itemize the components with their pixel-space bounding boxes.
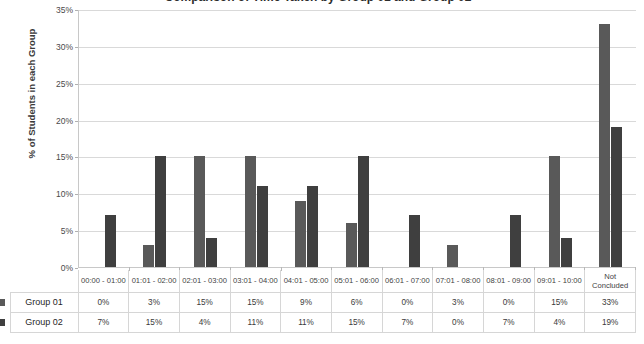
legend-swatch-icon bbox=[0, 319, 5, 326]
bar-group bbox=[79, 10, 130, 267]
table-value-cell: 6% bbox=[331, 292, 382, 312]
chart-title: Comparison of Time Taken by Group 01 and… bbox=[78, 0, 558, 4]
bar-pair bbox=[535, 10, 586, 267]
y-axis-tick-mark bbox=[75, 10, 78, 11]
bar-group-02[interactable] bbox=[257, 186, 268, 267]
table-value-cell: 4% bbox=[179, 312, 230, 332]
bar-group-01[interactable] bbox=[346, 223, 357, 267]
bar-group bbox=[130, 10, 181, 267]
bar-group-02[interactable] bbox=[307, 186, 318, 267]
bar-group bbox=[433, 10, 484, 267]
table-column-header: 03:01 - 04:00 bbox=[230, 270, 281, 292]
y-axis-tick-mark bbox=[75, 47, 78, 48]
table-row: Group 027%15%4%11%11%15%7%0%7%4%19% bbox=[0, 312, 636, 332]
table-header-key-cell bbox=[0, 270, 10, 292]
table-value-cell: 7% bbox=[78, 312, 129, 332]
bar-group-01[interactable] bbox=[295, 201, 306, 267]
table-value-cell: 0% bbox=[382, 292, 433, 312]
table-value-cell: 7% bbox=[483, 312, 534, 332]
table-column-header: 01:01 - 02:00 bbox=[129, 270, 180, 292]
bar-group-02[interactable] bbox=[611, 127, 622, 267]
bar-pair bbox=[484, 10, 535, 267]
y-axis-tick-mark bbox=[75, 194, 78, 195]
legend-swatch-icon bbox=[0, 299, 5, 306]
table-column-header: 00:00 - 01:00 bbox=[78, 270, 129, 292]
table-value-cell: 11% bbox=[230, 312, 281, 332]
bar-group-02[interactable] bbox=[510, 215, 521, 267]
table-value-cell: 33% bbox=[585, 292, 636, 312]
bar-group bbox=[535, 10, 586, 267]
bar-pair bbox=[282, 10, 333, 267]
bar-group-02[interactable] bbox=[206, 238, 217, 267]
bar-pair bbox=[180, 10, 231, 267]
table-value-cell: 3% bbox=[433, 292, 484, 312]
table-value-cell: 4% bbox=[534, 312, 585, 332]
data-table: 00:00 - 01:0001:01 - 02:0002:01 - 03:000… bbox=[0, 270, 636, 333]
table-value-cell: 3% bbox=[129, 292, 180, 312]
bar-pair bbox=[585, 10, 636, 267]
table-column-header: 02:01 - 03:00 bbox=[179, 270, 230, 292]
y-axis-tick-mark bbox=[75, 121, 78, 122]
table-column-header: 08:01 - 09:00 bbox=[483, 270, 534, 292]
legend-key-cell bbox=[0, 312, 10, 332]
table-column-header: 05:01 - 06:00 bbox=[331, 270, 382, 292]
bar-group bbox=[383, 10, 434, 267]
table-column-header: 09:01 - 10:00 bbox=[534, 270, 585, 292]
table-value-cell: 15% bbox=[230, 292, 281, 312]
table-column-header: 06:01 - 07:00 bbox=[382, 270, 433, 292]
table-value-cell: 15% bbox=[129, 312, 180, 332]
table-row: Group 010%3%15%15%9%6%0%3%0%15%33% bbox=[0, 292, 636, 312]
bar-group-01[interactable] bbox=[194, 156, 205, 267]
series-name-label: Group 02 bbox=[10, 312, 78, 332]
bar-pair bbox=[79, 10, 130, 267]
bar-pair bbox=[231, 10, 282, 267]
chart-screenshot: Comparison of Time Taken by Group 01 and… bbox=[0, 0, 644, 344]
y-axis-tick-label: 25% bbox=[37, 79, 73, 89]
y-axis-tick-mark bbox=[75, 84, 78, 85]
bar-pair bbox=[383, 10, 434, 267]
bar-group bbox=[484, 10, 535, 267]
table-value-cell: 19% bbox=[585, 312, 636, 332]
bar-group-02[interactable] bbox=[155, 156, 166, 267]
y-axis-title: % of Students in each Group bbox=[26, 14, 37, 174]
bar-group bbox=[282, 10, 333, 267]
bar-pair bbox=[332, 10, 383, 267]
table-column-header: 04:01 - 05:00 bbox=[281, 270, 332, 292]
bar-group-01[interactable] bbox=[447, 245, 458, 267]
table-column-header: NotConcluded bbox=[585, 270, 636, 292]
table-value-cell: 0% bbox=[78, 292, 129, 312]
bar-group bbox=[585, 10, 636, 267]
bar-group bbox=[332, 10, 383, 267]
series-name-label: Group 01 bbox=[10, 292, 78, 312]
bar-group-01[interactable] bbox=[599, 24, 610, 267]
plot-area bbox=[78, 10, 636, 268]
y-axis-tick-label: 5% bbox=[37, 226, 73, 236]
bar-group bbox=[231, 10, 282, 267]
y-axis-tick-label: 15% bbox=[37, 152, 73, 162]
y-axis-tick-mark bbox=[75, 157, 78, 158]
plot-area-wrapper: 0%5%10%15%20%25%30%35% bbox=[78, 10, 636, 268]
bar-group-02[interactable] bbox=[409, 215, 420, 267]
bar-group-01[interactable] bbox=[549, 156, 560, 267]
table-value-cell: 0% bbox=[483, 292, 534, 312]
bar-group-01[interactable] bbox=[143, 245, 154, 267]
bar-group-02[interactable] bbox=[105, 215, 116, 267]
legend-key-cell bbox=[0, 292, 10, 312]
table-column-header: 07:01 - 08:00 bbox=[433, 270, 484, 292]
table-value-cell: 0% bbox=[433, 312, 484, 332]
table-value-cell: 15% bbox=[534, 292, 585, 312]
y-axis-tick-label: 20% bbox=[37, 116, 73, 126]
bar-group-01[interactable] bbox=[245, 156, 256, 267]
bar-pair bbox=[130, 10, 181, 267]
table-value-cell: 15% bbox=[331, 312, 382, 332]
table-value-cell: 7% bbox=[382, 312, 433, 332]
bar-columns bbox=[79, 10, 636, 267]
bar-group-02[interactable] bbox=[358, 156, 369, 267]
y-axis-tick-label: 30% bbox=[37, 42, 73, 52]
y-axis-tick-mark bbox=[75, 231, 78, 232]
table-value-cell: 9% bbox=[281, 292, 332, 312]
bar-group-02[interactable] bbox=[561, 238, 572, 267]
table-value-cell: 15% bbox=[179, 292, 230, 312]
y-axis-tick-label: 10% bbox=[37, 189, 73, 199]
table-value-cell: 11% bbox=[281, 312, 332, 332]
